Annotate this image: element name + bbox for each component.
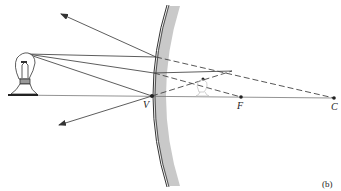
center-of-curvature-point: [332, 96, 336, 100]
vertex-label: V: [143, 100, 149, 110]
vertex-point: [150, 94, 154, 98]
center-of-curvature-label: C: [331, 102, 338, 112]
incident-ray-3: [27, 54, 152, 96]
extension-to-C: [156, 57, 334, 98]
principal-axis: [8, 95, 334, 98]
bulb-object-icon: [8, 53, 38, 95]
focal-point: [239, 95, 243, 99]
reflected-ray-1: [61, 14, 156, 57]
reflected-ray-3: [59, 96, 152, 125]
ray-diagram: [0, 0, 341, 191]
panel-label: (b): [322, 180, 333, 189]
focal-point-label: F: [237, 101, 243, 111]
